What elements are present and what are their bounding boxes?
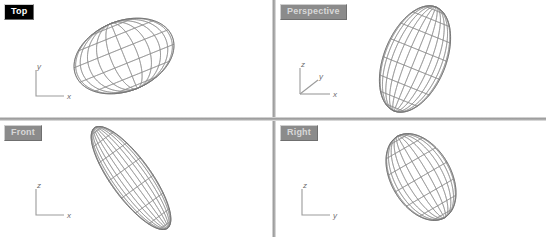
wireframe-line <box>401 23 451 43</box>
axis-gizmo-perspective: z y x <box>292 62 348 106</box>
wireframe-line <box>91 18 133 35</box>
axis-label-z: z <box>300 60 305 69</box>
axis-label-x: x <box>66 211 72 220</box>
wireframe-line <box>111 24 137 89</box>
axis-label-z: z <box>302 181 307 190</box>
axis-label-z: z <box>36 181 41 190</box>
axis-gizmo-front: z x <box>28 183 74 223</box>
wireframe-line <box>380 75 430 95</box>
axis-lines-front <box>36 189 64 215</box>
wireframe-line <box>95 128 168 228</box>
axis-label-y: y <box>332 211 338 220</box>
axis-label-x: x <box>332 90 338 99</box>
wireframe-line <box>394 7 436 111</box>
viewport-top[interactable]: y x Top <box>0 0 272 117</box>
viewport-right[interactable]: z y Right <box>276 121 546 237</box>
wireframe-line <box>80 44 174 82</box>
viewport-label-front[interactable]: Front <box>4 125 42 141</box>
axis-gizmo-right: z y <box>294 183 340 223</box>
viewport-front[interactable]: z x Front <box>0 121 272 237</box>
axis-label-y: y <box>318 72 324 81</box>
viewport-label-perspective[interactable]: Perspective <box>280 4 347 20</box>
viewport-perspective[interactable]: z y x Perspective <box>276 0 546 117</box>
wireframe-line <box>115 77 157 94</box>
viewport-label-top[interactable]: Top <box>4 4 34 20</box>
cad-four-viewport-window: y x Top z y x Perspective <box>0 0 546 237</box>
wireframe-line <box>74 30 168 68</box>
axis-lines-top <box>36 70 64 96</box>
axis-gizmo-top: y x <box>28 64 74 104</box>
viewport-label-right[interactable]: Right <box>280 125 318 141</box>
axis-lines-right <box>302 189 330 215</box>
viewport-divider-horizontal[interactable] <box>0 117 546 121</box>
axis-line-y <box>300 80 318 94</box>
axis-label-x: x <box>66 92 72 101</box>
axis-label-y: y <box>36 62 42 71</box>
